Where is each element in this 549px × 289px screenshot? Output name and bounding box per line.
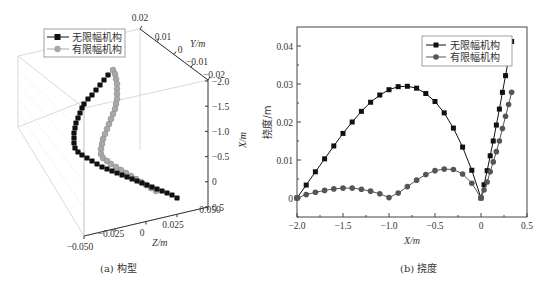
- data-point: [469, 180, 475, 186]
- data-point: [105, 72, 110, 77]
- y-tick-label: 0: [178, 45, 183, 55]
- x-tick-label: −1.0: [212, 127, 229, 137]
- data-point: [441, 166, 447, 172]
- data-point: [451, 167, 457, 173]
- data-point: [368, 188, 374, 194]
- legend-label: 无限幅机构: [450, 39, 500, 51]
- data-point: [432, 168, 438, 174]
- y-tick-label: 0.02: [276, 118, 293, 128]
- data-point: [500, 126, 506, 132]
- data-point: [503, 73, 508, 78]
- data-point: [71, 135, 76, 140]
- data-point: [350, 120, 355, 125]
- data-point: [129, 176, 134, 181]
- data-point: [500, 90, 505, 95]
- data-point: [487, 169, 493, 175]
- data-point: [488, 153, 493, 158]
- data-point: [79, 105, 84, 110]
- data-point: [368, 100, 373, 105]
- data-point: [414, 86, 419, 91]
- x-axis-title: X/m: [237, 132, 248, 149]
- data-point: [503, 114, 509, 120]
- data-point: [494, 149, 500, 155]
- data-point: [174, 195, 179, 200]
- data-point: [340, 185, 346, 191]
- x-tick-label: −0.5: [212, 152, 229, 162]
- data-point: [386, 195, 392, 201]
- data-point: [119, 172, 124, 177]
- data-point: [97, 82, 102, 87]
- data-point: [451, 126, 456, 131]
- data-point: [509, 90, 515, 96]
- x-tick-label: 0: [479, 221, 484, 231]
- data-point: [331, 143, 336, 148]
- data-point: [77, 110, 82, 115]
- data-point: [313, 169, 318, 174]
- y-tick-label: 0.01: [155, 32, 172, 42]
- legend-square-icon: [55, 34, 61, 40]
- data-point: [377, 191, 383, 197]
- axes-box: [18, 26, 210, 239]
- data-point: [114, 170, 119, 175]
- data-point: [109, 168, 114, 173]
- data-point: [89, 158, 94, 163]
- chart-deflection: −2.0−1.5−1.0−0.500.500.010.020.030.04X/m…: [262, 0, 549, 289]
- data-point: [154, 186, 159, 191]
- legend-square-icon: [434, 43, 439, 48]
- data-point: [494, 123, 499, 128]
- series-limited: [294, 90, 514, 201]
- data-point: [490, 159, 496, 165]
- data-point: [94, 161, 99, 166]
- legend-circle-icon: [54, 46, 60, 52]
- data-point: [481, 187, 487, 193]
- z-tick-label: −0.050: [67, 242, 94, 252]
- z-tick-label: 0.050: [199, 205, 221, 215]
- data-point: [497, 138, 503, 144]
- legend-circle-icon: [433, 54, 439, 60]
- z-tick-label: −0.025: [98, 229, 125, 239]
- legend-label: 有限幅机构: [72, 43, 122, 55]
- data-point: [72, 125, 77, 130]
- data-point: [341, 131, 346, 136]
- y-tick-label: −0.01: [186, 57, 208, 67]
- data-point: [331, 186, 337, 192]
- data-point: [79, 152, 84, 157]
- data-point: [433, 99, 438, 104]
- data-point: [387, 87, 392, 92]
- data-point: [497, 107, 502, 112]
- data-point: [104, 166, 109, 171]
- data-point: [134, 178, 139, 183]
- data-point: [304, 183, 309, 188]
- x-tick-label: −1.5: [334, 221, 351, 231]
- data-point: [169, 192, 174, 197]
- data-point: [73, 120, 78, 125]
- data-point: [71, 130, 76, 135]
- data-point: [124, 174, 129, 179]
- z-tick-label: 0: [140, 228, 145, 238]
- series-unlimited-3d: [71, 72, 179, 200]
- chart-3d-configuration: −2.0−1.5−1.0−0.500.5X/m0.020.010−0.01−0.…: [0, 0, 275, 289]
- x-tick-label: −0.5: [426, 221, 443, 231]
- y-tick-label: 0.03: [276, 80, 293, 90]
- legend: 无限幅机构有限幅机构: [44, 29, 125, 57]
- x-tick-label: −2.0: [288, 221, 305, 231]
- data-point: [149, 184, 154, 189]
- data-point: [322, 156, 327, 161]
- data-point: [294, 195, 300, 201]
- data-point: [303, 192, 309, 198]
- data-point: [414, 177, 420, 183]
- data-point: [478, 195, 484, 201]
- caption-a: (a) 构型: [100, 260, 137, 275]
- x-tick-label: 0: [212, 177, 217, 187]
- data-point: [395, 190, 401, 196]
- panel-deflection: −2.0−1.5−1.0−0.500.500.010.020.030.04X/m…: [262, 0, 549, 289]
- x-axis-title: X/m: [403, 235, 420, 246]
- data-point: [85, 96, 90, 101]
- legend-label: 有限幅机构: [450, 51, 500, 63]
- data-point: [99, 164, 104, 169]
- data-point: [101, 77, 106, 82]
- legend-label: 无限幅机构: [72, 31, 122, 43]
- data-point: [159, 188, 164, 193]
- data-point: [93, 87, 98, 92]
- data-point: [484, 179, 490, 185]
